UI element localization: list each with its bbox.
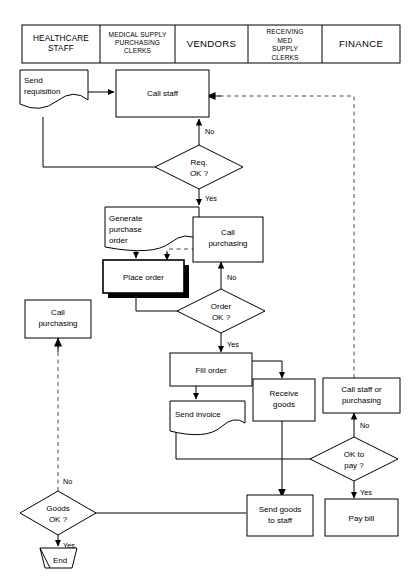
node-label-line: Send goods [259,505,302,514]
node-ok-to-pay-decision[interactable]: OK to pay ? [310,437,398,481]
header-label-line: RECEIVING [266,28,303,35]
node-label-line: Send invoice [175,410,221,419]
edge-fill-order-to-receive-goods [252,361,282,378]
header-cell-vendors: VENDORS [187,38,237,49]
flowchart-canvas: HEALTHCARE STAFF MEDICAL SUPPLY PURCHASI… [0,0,416,583]
node-label-line: to staff [268,516,293,525]
node-send-requisition[interactable]: Send requisition [20,70,88,108]
node-generate-purchase-order[interactable]: Generate purchase order [105,207,199,251]
node-call-purchasing-healthcare[interactable]: Call purchasing [25,300,91,338]
edge-label-req-no: No [205,127,214,136]
node-goods-ok-decision[interactable]: Goods OK ? [20,491,96,535]
header-label-line: HEALTHCARE [33,34,89,43]
header-cell-receiving-med-supply-clerks: RECEIVING MED SUPPLY CLERKS [266,28,303,61]
node-label-line: Place order [123,273,164,282]
node-pay-bill[interactable]: Pay bill [325,499,398,536]
ok-to-pay-shape [310,437,398,481]
edge-send-requisition-to-req-ok [43,117,182,167]
node-label-line: purchasing [38,319,77,328]
node-send-goods-to-staff[interactable]: Send goods to staff [247,495,313,536]
edge-label-req-yes: Yes [205,194,217,203]
node-send-invoice[interactable]: Send invoice [170,401,245,435]
node-label-line: OK to [344,450,365,459]
node-label-line: purchasing [342,396,381,405]
swimlane-header: HEALTHCARE STAFF MEDICAL SUPPLY PURCHASI… [22,25,400,63]
header-cell-finance: FINANCE [339,38,383,49]
node-call-staff[interactable]: Call staff [116,70,209,117]
node-label-line: purchasing [208,239,247,248]
node-label-line: Req. [191,158,208,167]
node-label-line: order [109,236,128,245]
node-receive-goods[interactable]: Receive goods [253,379,315,421]
header-label-line: MED [278,37,293,44]
node-call-staff-or-purchasing[interactable]: Call staff or purchasing [323,378,400,413]
node-label-line: OK ? [49,515,68,524]
header-label-line: FINANCE [339,38,383,49]
header-label-line: SUPPLY [272,45,299,52]
node-label-line: End [53,556,67,565]
node-fill-order[interactable]: Fill order [170,353,252,386]
node-call-purchasing-vendors[interactable]: Call purchasing [193,217,263,262]
header-label-line: VENDORS [187,38,237,49]
header-label-line: MEDICAL SUPPLY [109,31,167,38]
node-label-line: Generate [109,214,143,223]
edge-label-goods-yes: Yes [63,541,75,550]
node-label-line: purchase [109,225,142,234]
edge-label-pay-yes: Yes [360,488,372,497]
flowchart-diagram: HEALTHCARE STAFF MEDICAL SUPPLY PURCHASI… [0,0,416,583]
node-label-line: goods [273,400,295,409]
node-label-line: pay ? [344,461,364,470]
req-ok-shape [155,145,243,189]
node-label-line: Pay bill [349,514,375,523]
node-label-line: Fill order [195,366,226,375]
edge-send-invoice-to-ok-to-pay [176,432,337,459]
header-label-line: STAFF [48,44,74,53]
node-label-line: Call staff or [341,385,382,394]
edge-label-pay-no: No [360,421,369,430]
order-ok-shape [177,289,265,333]
node-place-order[interactable]: Place order [103,260,189,298]
node-label-line: Call [221,228,235,237]
node-label-line: Order [211,302,232,311]
header-label-line: PURCHASING [115,39,160,46]
header-label-line: CLERKS [124,47,151,54]
node-label-line: requisition [24,87,60,96]
node-label-line: OK ? [212,313,231,322]
node-label-line: Receive [270,389,299,398]
node-label-line: Send [24,76,43,85]
node-req-ok-decision[interactable]: Req. OK ? [155,145,243,189]
edge-label-order-no: No [227,273,236,282]
node-order-ok-decision[interactable]: Order OK ? [177,289,265,333]
edge-label-goods-no: No [63,477,72,486]
header-label-line: CLERKS [272,54,299,61]
node-label-line: Call [51,308,65,317]
edge-label-order-yes: Yes [227,340,239,349]
node-label-line: Call staff [147,89,179,98]
goods-ok-shape [20,491,96,535]
node-label-line: Goods [46,504,70,513]
node-label-line: OK ? [190,169,209,178]
node-end-terminator[interactable]: End [40,548,77,568]
